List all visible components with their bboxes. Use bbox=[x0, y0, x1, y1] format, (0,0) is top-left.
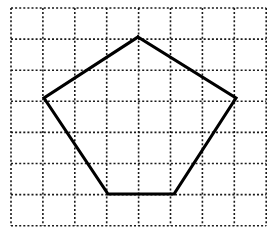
pentagon-figure bbox=[0, 0, 270, 243]
figure-background bbox=[0, 0, 270, 243]
figure-canvas bbox=[0, 0, 270, 243]
